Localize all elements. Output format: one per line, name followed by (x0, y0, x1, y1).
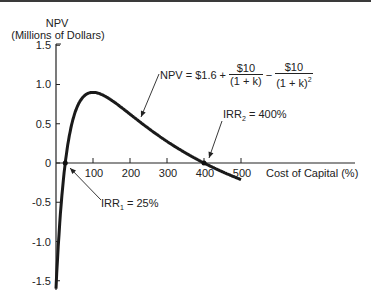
fraction-1-numerator: $10 (229, 62, 262, 75)
y-tick-label: -1.0 (21, 236, 51, 248)
irr2-arrow-head (209, 151, 214, 158)
x-tick-label: 400 (190, 167, 220, 179)
formula-fraction-1: $10 (1 + k) (229, 62, 262, 87)
x-tick-label: 100 (79, 167, 109, 179)
formula-prefix: NPV = $1.6 + (160, 69, 226, 81)
fraction-2-numerator: $10 (275, 61, 312, 74)
formula-minus: − (266, 69, 272, 81)
formula-arrow (141, 74, 159, 117)
irr1-point (63, 161, 68, 166)
x-tick-label: 200 (116, 167, 146, 179)
y-tick-label: 0.5 (21, 118, 51, 130)
y-tick-label: 1.5 (21, 39, 51, 51)
y-tick-label: -1.5 (21, 275, 51, 287)
fraction-2-denominator: (1 + k)2 (275, 74, 312, 89)
chart-plot-area (0, 0, 371, 304)
fraction-1-denominator: (1 + k) (229, 75, 262, 87)
x-tick-label: 500 (227, 167, 257, 179)
y-axis-title-line1: NPV (40, 17, 74, 29)
y-tick-label: 1.0 (21, 78, 51, 90)
x-tick-label: 300 (153, 167, 183, 179)
irr2-post: = 400% (246, 108, 287, 120)
npv-curve (56, 92, 241, 288)
fraction-2-exponent: 2 (308, 76, 312, 83)
irr1-post: = 25% (124, 197, 159, 209)
x-axis-title: Cost of Capital (%) (266, 167, 358, 179)
irr2-annotation: IRR2 = 400% (223, 108, 287, 125)
y-tick-label: -0.5 (21, 196, 51, 208)
irr2-point (202, 161, 207, 166)
irr2-pre: IRR (223, 108, 242, 120)
npv-formula-annotation: NPV = $1.6 + $10 (1 + k) − $10 (1 + k)2 (160, 61, 313, 89)
irr1-pre: IRR (101, 197, 120, 209)
fraction-2-den-base: (1 + k) (276, 77, 307, 89)
y-tick-label: 0 (21, 157, 51, 169)
formula-fraction-2: $10 (1 + k)2 (275, 61, 312, 89)
irr1-annotation: IRR1 = 25% (101, 197, 158, 214)
